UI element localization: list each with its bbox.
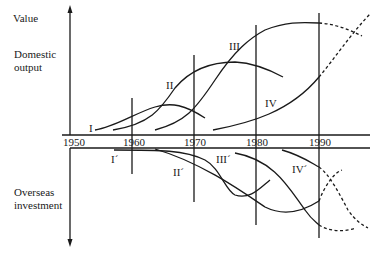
year-tick-1950: 1950: [63, 136, 85, 148]
year-tick-1970: 1970: [184, 136, 206, 148]
curve-label-III-prime: III´: [216, 153, 231, 165]
curve-label-I: I: [89, 122, 93, 134]
overseas-investment-label-line1: Overseas: [14, 186, 54, 199]
curve-label-IV-prime: IV´: [292, 163, 307, 175]
curve-III-projection: [319, 23, 362, 36]
arrow-up-icon: [68, 5, 73, 13]
curve-label-IV: IV: [265, 97, 277, 109]
curve-II-prime-projection: [319, 170, 342, 201]
curve-III: [155, 23, 319, 130]
overseas-investment-label-line2: investment: [14, 199, 62, 212]
curve-label-II: II: [166, 79, 173, 91]
curve-II-prime: [155, 149, 319, 212]
curve-I-prime: [114, 150, 270, 196]
curve-label-I-prime: I´: [111, 153, 118, 165]
year-tick-1960: 1960: [123, 136, 145, 148]
product-cycle-diagram: Value Domestic output Overseas investmen…: [0, 0, 380, 253]
y-axis-label: Value: [13, 12, 38, 25]
curve-III-prime-projection: [319, 225, 356, 231]
domestic-output-label-line1: Domestic: [14, 48, 56, 61]
domestic-output-label-line2: output: [14, 61, 42, 74]
curve-II: [113, 62, 283, 130]
year-tick-1980: 1980: [246, 136, 268, 148]
curve-label-III: III: [229, 40, 240, 52]
curve-label-II-prime: II´: [173, 166, 184, 178]
year-tick-1990: 1990: [309, 136, 331, 148]
arrow-down-icon: [68, 239, 73, 247]
curve-IV-prime-projection: [319, 167, 368, 228]
diagram-canvas: [0, 0, 380, 253]
